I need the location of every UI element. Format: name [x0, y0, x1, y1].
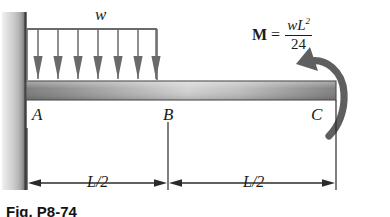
dimension-label-left: L/2	[87, 174, 108, 190]
numerator-text: wL	[287, 17, 305, 33]
down-arrow-icon	[133, 29, 142, 79]
down-arrow-icon	[93, 29, 102, 79]
diagram-canvas	[0, 0, 390, 217]
distributed-load-group	[27, 29, 161, 80]
numerator-exponent: 2	[306, 16, 311, 26]
down-arrow-icon	[113, 29, 122, 79]
extension-lines	[27, 100, 336, 190]
down-arrow-icon	[151, 29, 160, 79]
fraction-denominator: 24	[291, 36, 306, 53]
beam-diagram-figure: w A B C L/2 L/2 M = wL2 24 Fig. P8-74	[0, 0, 390, 217]
moment-fraction: wL2 24	[285, 17, 312, 53]
point-label-a: A	[32, 106, 42, 123]
point-label-c: C	[311, 106, 322, 123]
equals-sign: =	[271, 26, 280, 44]
down-arrow-icon	[33, 29, 42, 79]
fraction-numerator: wL2	[285, 17, 312, 35]
point-label-b: B	[163, 106, 173, 123]
figure-caption: Fig. P8-74	[6, 203, 77, 217]
load-label-w: w	[95, 6, 106, 23]
down-arrow-icon	[73, 29, 82, 79]
down-arrow-icon	[53, 29, 62, 79]
wall-hatch-icon	[2, 12, 27, 190]
dimension-label-right: L/2	[243, 174, 264, 190]
beam-member	[26, 81, 336, 100]
moment-symbol: M	[252, 26, 267, 44]
moment-equation: M = wL2 24	[252, 17, 312, 53]
